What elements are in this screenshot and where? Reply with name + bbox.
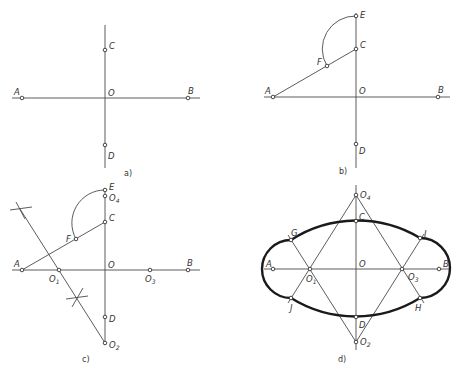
- label-f: F: [66, 234, 71, 244]
- label-o2: O2: [109, 340, 120, 351]
- label-b: B: [438, 85, 444, 95]
- point-b: [437, 267, 441, 271]
- point-e: [103, 188, 107, 192]
- point-b: [186, 96, 190, 100]
- point-g: [289, 238, 293, 242]
- point-b: [436, 95, 440, 99]
- caption-c: c): [82, 355, 90, 364]
- label-c: C: [359, 212, 365, 222]
- point-f: [74, 237, 78, 241]
- point-j: [289, 296, 293, 300]
- line-o4-j: [288, 195, 356, 303]
- label-d: D: [108, 151, 115, 161]
- label-h: H: [415, 303, 422, 313]
- label-o: O: [359, 259, 366, 269]
- label-o3: O3: [145, 274, 156, 285]
- label-o: O: [359, 86, 366, 96]
- line-o4-h: [356, 195, 424, 303]
- point-o2: [103, 341, 107, 345]
- label-g: G: [291, 228, 298, 238]
- label-e: E: [360, 10, 366, 20]
- label-a: A: [265, 259, 272, 269]
- label-c: C: [109, 41, 115, 51]
- point-c: [354, 47, 358, 51]
- label-o4: O4: [360, 190, 371, 201]
- point-d: [103, 315, 107, 319]
- label-o: O: [108, 260, 115, 270]
- label-j: J: [288, 303, 293, 313]
- point-i: [418, 236, 422, 240]
- arc-mark-top-2: [16, 202, 25, 219]
- point-o1: [308, 267, 312, 271]
- label-o1: O1: [49, 274, 60, 285]
- label-a: A: [13, 259, 20, 269]
- label-a: A: [264, 86, 271, 96]
- label-a: A: [13, 87, 20, 97]
- label-b: B: [188, 86, 194, 96]
- label-d: D: [109, 314, 116, 324]
- label-f: F: [317, 57, 322, 67]
- arc-mark-top-1: [10, 207, 32, 210]
- point-f: [325, 64, 329, 68]
- point-d: [354, 315, 358, 319]
- label-b: B: [443, 259, 449, 269]
- point-h: [418, 296, 422, 300]
- point-o4: [354, 193, 358, 197]
- panel-b: A B C D E F O b): [264, 10, 450, 176]
- line-ac: [273, 49, 356, 97]
- label-d: D: [359, 146, 366, 156]
- point-a: [20, 268, 24, 272]
- point-c: [354, 219, 358, 223]
- label-b: B: [187, 258, 193, 268]
- point-b: [186, 268, 190, 272]
- caption-b: b): [339, 167, 347, 176]
- arc-bottom: [291, 298, 420, 316]
- arc-top: [291, 221, 420, 240]
- label-o1: O1: [306, 274, 317, 285]
- label-o2: O2: [360, 337, 371, 348]
- point-e: [354, 14, 358, 18]
- point-o2: [354, 340, 358, 344]
- point-o1: [57, 268, 61, 272]
- point-c: [103, 220, 107, 224]
- point-c: [103, 48, 107, 52]
- label-d: D: [359, 320, 366, 330]
- panel-c: A B C D E F O O4 O1 O3 O2 c): [10, 182, 200, 364]
- point-o4: [103, 194, 107, 198]
- label-e: E: [109, 182, 115, 192]
- panel-d: A B C D O G J I H O4 O1 O3 O2 d): [262, 185, 450, 364]
- caption-d: d): [338, 355, 346, 364]
- label-o3: O3: [408, 272, 419, 283]
- point-a: [20, 96, 24, 100]
- ellipse-construction-figure: A B C D O a) A B C D E F O b): [0, 0, 456, 369]
- point-d: [354, 142, 358, 146]
- point-a: [271, 95, 275, 99]
- point-o3: [400, 267, 404, 271]
- point-d: [103, 143, 107, 147]
- caption-a: a): [124, 169, 132, 178]
- line-ac: [22, 222, 105, 270]
- label-o: O: [108, 88, 115, 98]
- point-o3: [148, 268, 152, 272]
- line-o2-i: [356, 234, 424, 342]
- arc-mark-bottom-2: [72, 288, 83, 307]
- line-o2-g: [288, 235, 356, 342]
- panel-a: A B C D O a): [12, 25, 200, 178]
- label-c: C: [109, 213, 115, 223]
- label-c: C: [360, 40, 366, 50]
- label-o4: O4: [109, 193, 120, 204]
